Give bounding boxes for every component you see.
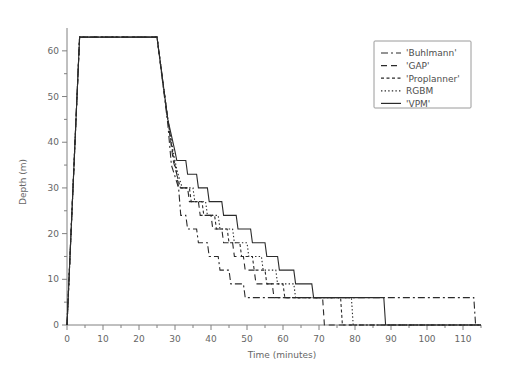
x-tick-label: 60	[277, 334, 289, 344]
x-tick-label: 20	[133, 334, 145, 344]
dive-profile-chart: 0102030405060 0102030405060708090100110 …	[0, 0, 518, 381]
x-axis-title: Time (minutes)	[247, 350, 316, 360]
x-tick-label: 40	[205, 334, 217, 344]
x-tick-label: 70	[313, 334, 325, 344]
legend-label-3: RGBM	[406, 86, 433, 96]
y-tick-label: 0	[53, 320, 59, 330]
x-tick-label: 50	[241, 334, 253, 344]
chart-root: 0102030405060 0102030405060708090100110 …	[0, 0, 518, 381]
y-tick-label: 60	[48, 46, 60, 56]
y-tick-label: 20	[48, 229, 60, 239]
y-tick-label: 40	[48, 137, 60, 147]
legend-label-0: 'Buhlmann'	[406, 48, 457, 58]
chart-legend: 'Buhlmann''GAP''Proplanner'RGBM'VPM'	[374, 41, 471, 109]
y-tick-label: 50	[48, 92, 60, 102]
legend-label-4: 'VPM'	[406, 99, 430, 109]
x-tick-label: 100	[418, 334, 435, 344]
legend-label-2: 'Proplanner'	[406, 74, 460, 84]
x-tick-label: 0	[64, 334, 70, 344]
legend-label-1: 'GAP'	[406, 61, 430, 71]
x-tick-label: 90	[385, 334, 397, 344]
y-tick-label: 10	[48, 274, 60, 284]
y-tick-label: 30	[48, 183, 60, 193]
x-tick-label: 80	[349, 334, 361, 344]
x-tick-label: 30	[169, 334, 181, 344]
x-tick-label: 10	[97, 334, 109, 344]
x-tick-label: 110	[454, 334, 471, 344]
y-axis-title: Depth (m)	[18, 159, 28, 205]
